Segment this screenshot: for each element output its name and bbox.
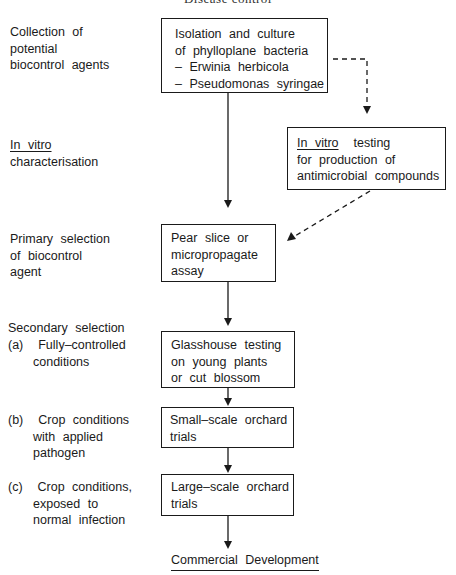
arrowhead-icon bbox=[287, 232, 296, 241]
stage-label-secondary-c: (c) Crop conditions, exposed to normal i… bbox=[8, 479, 132, 529]
stage-label-in-vitro: In vitro characterisation bbox=[10, 137, 98, 170]
dashed-arrow-isolation-to-invitro bbox=[333, 59, 367, 106]
box-isolation-culture: Isolation and culture of phylloplane bac… bbox=[161, 18, 328, 93]
stage-label-secondary-b: (b) Crop conditions with applied pathoge… bbox=[8, 412, 129, 462]
box-small-scale-trials: Small–scale orchard trials bbox=[161, 407, 294, 448]
stage-label-primary-selection: Primary selection of biocontrol agent bbox=[10, 231, 110, 281]
box-glasshouse-testing: Glasshouse testing on young plants or cu… bbox=[161, 331, 295, 388]
stage-label-secondary-a: (a) Fully–controlled conditions bbox=[8, 337, 126, 370]
arrowhead-icon bbox=[224, 398, 232, 406]
box-in-vitro-testing: In vitro testing for production of antim… bbox=[287, 127, 446, 190]
arrowhead-icon bbox=[224, 318, 232, 326]
arrowhead-icon bbox=[363, 106, 371, 114]
final-outcome-commercial-development: Commercial Development bbox=[171, 553, 319, 571]
box-pear-slice-assay: Pear slice or micropropagate assay bbox=[161, 224, 276, 282]
arrowhead-icon bbox=[224, 541, 232, 549]
box-large-scale-trials: Large–scale orchard trials bbox=[161, 474, 294, 516]
stage-label-secondary-selection: Secondary selection bbox=[8, 320, 125, 337]
dashed-arrow-invitro-to-pear bbox=[295, 191, 370, 236]
stage-label-collection: Collection of potential biocontrol agent… bbox=[10, 24, 109, 74]
arrowhead-icon bbox=[224, 465, 232, 473]
arrowhead-icon bbox=[224, 200, 232, 208]
